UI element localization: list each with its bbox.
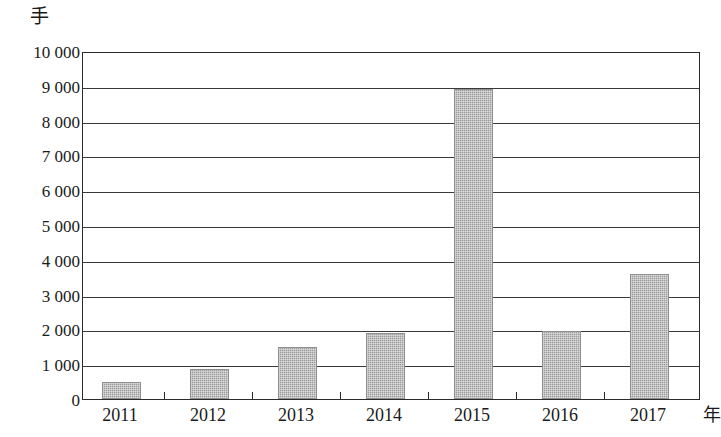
x-axis-tick [428, 392, 429, 399]
bar-2016 [542, 331, 581, 399]
x-axis-tick [516, 392, 517, 399]
x-tick-label-2011: 2011 [102, 404, 137, 426]
x-tick-label-2012: 2012 [190, 404, 226, 426]
x-axis-tick [604, 392, 605, 399]
y-tick-label: 6 000 [0, 183, 80, 200]
y-tick-label: 0 [0, 392, 80, 409]
bar-2017 [630, 274, 669, 399]
x-axis-tick [164, 392, 165, 399]
y-tick-label: 5 000 [0, 218, 80, 235]
y-tick-label: 4 000 [0, 253, 80, 270]
x-axis-unit-label: 年 [703, 404, 721, 426]
bar-2012 [190, 369, 229, 399]
y-tick-label: 9 000 [0, 79, 80, 96]
bar-2014 [366, 333, 405, 399]
x-tick-label-2015: 2015 [454, 404, 490, 426]
x-tick-label-2013: 2013 [278, 404, 314, 426]
x-axis-tick [340, 392, 341, 399]
x-tick-label-2014: 2014 [366, 404, 402, 426]
bar-series [83, 53, 699, 399]
y-tick-label: 10 000 [0, 44, 80, 61]
x-axis-tick [252, 392, 253, 399]
y-tick-label: 2 000 [0, 322, 80, 339]
plot-area [82, 52, 700, 400]
x-tick-label-2017: 2017 [630, 404, 666, 426]
y-axis-tick-labels: 10 000 9 000 8 000 7 000 6 000 5 000 4 0… [0, 0, 80, 437]
bar-2011 [102, 382, 141, 399]
bar-chart: 手 10 000 9 000 8 000 7 000 6 000 5 000 4… [0, 0, 721, 437]
y-tick-label: 3 000 [0, 288, 80, 305]
x-axis-tick-labels: 2011 2012 2013 2014 2015 2016 2017 [82, 404, 700, 434]
bar-2015 [454, 89, 493, 399]
y-tick-label: 7 000 [0, 148, 80, 165]
y-tick-label: 8 000 [0, 114, 80, 131]
bar-2013 [278, 347, 317, 399]
y-tick-label: 1 000 [0, 357, 80, 374]
x-tick-label-2016: 2016 [542, 404, 578, 426]
